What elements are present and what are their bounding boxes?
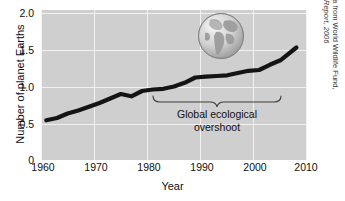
y-axis-title: Number of planet Earths (14, 9, 26, 159)
overshoot-annotation-line1: Global ecological (150, 108, 284, 121)
footprint-data-line (41, 10, 307, 160)
earth-globe-icon (196, 11, 246, 61)
source-credit-line2: Living Planet Report, 2006 (322, 0, 331, 125)
x-tick-label-1980: 1980 (129, 162, 169, 173)
plot-area (41, 10, 307, 160)
x-tick-label-2000: 2000 (235, 162, 275, 173)
source-credit: Based on data from World Wildlife Fund, … (322, 0, 340, 125)
x-tick-label-1960: 1960 (23, 162, 63, 173)
x-tick-label-1970: 1970 (76, 162, 116, 173)
x-axis-title: Year (0, 180, 345, 192)
x-tick-label-2010: 2010 (286, 162, 326, 173)
ecological-footprint-chart: 2.0 1.5 1.0 0.5 0 Number of planet Earth… (0, 0, 345, 201)
overshoot-annotation: Global ecological overshoot (150, 108, 284, 133)
x-tick-label-1990: 1990 (182, 162, 222, 173)
x-axis-tick-labels: 1960 1970 1980 1990 2000 2010 (0, 162, 345, 176)
overshoot-brace-icon (152, 95, 282, 109)
overshoot-annotation-line2: overshoot (150, 121, 284, 134)
source-credit-line1: Based on data from World Wildlife Fund, (331, 0, 340, 125)
